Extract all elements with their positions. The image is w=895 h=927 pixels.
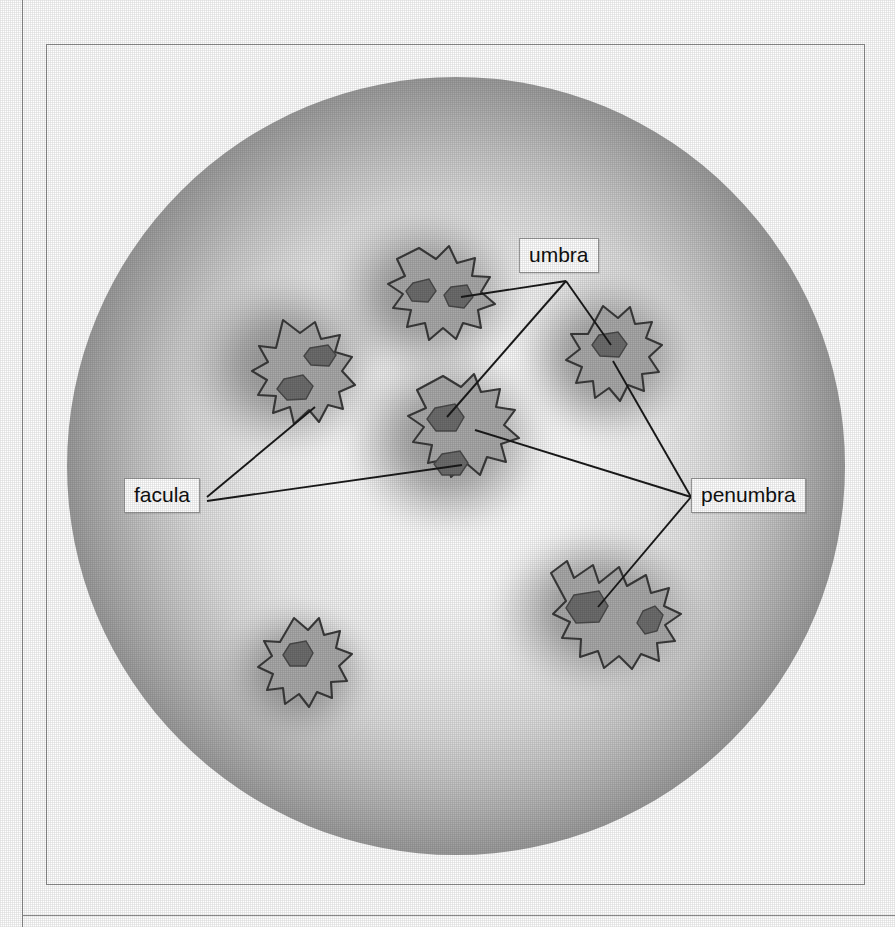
callout-label-umbra[interactable]: umbra	[519, 238, 599, 273]
page-rule-left	[22, 0, 23, 927]
callout-label-facula[interactable]: facula	[124, 478, 200, 513]
page-rule-bottom	[22, 915, 895, 916]
callout-label-penumbra[interactable]: penumbra	[691, 478, 806, 513]
page-canvas: umbra facula penumbra	[0, 0, 895, 927]
solar-disk-figure	[47, 45, 864, 884]
